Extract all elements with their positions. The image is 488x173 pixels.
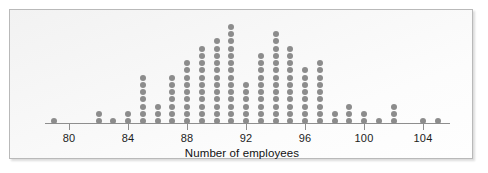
data-dot <box>169 82 175 88</box>
data-dot <box>273 82 279 88</box>
data-dot <box>184 89 190 95</box>
data-dot <box>140 89 146 95</box>
data-dot <box>391 104 397 110</box>
x-axis-tick-104 <box>423 124 424 130</box>
x-axis-tick-label-100: 100 <box>355 132 374 144</box>
data-dot <box>184 67 190 73</box>
data-dot <box>184 96 190 102</box>
data-dot <box>287 96 293 102</box>
data-dot <box>140 96 146 102</box>
data-dot <box>346 104 352 110</box>
data-dot <box>184 82 190 88</box>
data-dot <box>287 111 293 117</box>
data-dot <box>361 118 367 124</box>
data-dot <box>302 82 308 88</box>
data-dot <box>199 67 205 73</box>
data-dot <box>214 38 220 44</box>
data-dot <box>169 75 175 81</box>
data-dot <box>258 60 264 66</box>
data-dot <box>214 96 220 102</box>
x-axis-tick-label-92: 92 <box>240 132 253 144</box>
data-dot <box>169 111 175 117</box>
data-dot <box>302 67 308 73</box>
data-dot <box>273 96 279 102</box>
data-dot <box>228 82 234 88</box>
data-dot <box>391 118 397 124</box>
data-dot <box>214 67 220 73</box>
data-dot <box>140 118 146 124</box>
data-dot <box>273 111 279 117</box>
data-dot <box>258 53 264 59</box>
data-dot <box>258 96 264 102</box>
dot-plot-figure: Number of employees 8084889296100104 <box>0 0 488 173</box>
data-dot <box>169 89 175 95</box>
data-dot <box>243 104 249 110</box>
x-axis-tick-84 <box>128 124 129 130</box>
x-axis-tick-80 <box>69 124 70 130</box>
data-dot <box>346 111 352 117</box>
data-dot <box>287 53 293 59</box>
data-dot <box>140 82 146 88</box>
data-dot <box>273 89 279 95</box>
data-dot <box>228 31 234 37</box>
data-dot <box>302 75 308 81</box>
data-dot <box>361 111 367 117</box>
data-dot <box>258 75 264 81</box>
data-dot <box>243 96 249 102</box>
data-dot <box>228 75 234 81</box>
data-dot <box>214 46 220 52</box>
data-dot <box>317 89 323 95</box>
data-dot <box>214 60 220 66</box>
data-dot <box>376 118 382 124</box>
data-dot <box>214 104 220 110</box>
data-dot <box>287 104 293 110</box>
data-dot <box>199 89 205 95</box>
data-dot <box>273 104 279 110</box>
data-dot <box>302 96 308 102</box>
data-dot <box>214 89 220 95</box>
data-dot <box>273 60 279 66</box>
x-axis-title: Number of employees <box>10 147 474 159</box>
data-dot <box>199 46 205 52</box>
x-axis-tick-96 <box>305 124 306 130</box>
data-dot <box>258 67 264 73</box>
plot-area: Number of employees 8084889296100104 <box>10 10 474 160</box>
data-dot <box>243 82 249 88</box>
data-dot <box>287 75 293 81</box>
data-dot <box>273 46 279 52</box>
data-dot <box>287 46 293 52</box>
data-dot <box>317 67 323 73</box>
data-dot <box>287 60 293 66</box>
data-dot <box>199 82 205 88</box>
x-axis-tick-100 <box>364 124 365 130</box>
data-dot <box>273 31 279 37</box>
x-axis-tick-88 <box>187 124 188 130</box>
data-dot <box>435 118 441 124</box>
data-dot <box>317 104 323 110</box>
data-dot <box>302 89 308 95</box>
data-dot <box>391 111 397 117</box>
data-dot <box>214 53 220 59</box>
data-dot <box>420 118 426 124</box>
data-dot <box>169 96 175 102</box>
data-dot <box>317 60 323 66</box>
data-dot <box>302 118 308 124</box>
data-dot <box>184 118 190 124</box>
data-dot <box>243 89 249 95</box>
x-axis-tick-label-80: 80 <box>63 132 76 144</box>
data-dot <box>214 111 220 117</box>
data-dot <box>228 60 234 66</box>
data-dot <box>228 111 234 117</box>
data-dot <box>155 104 161 110</box>
data-dot <box>258 82 264 88</box>
data-dot <box>287 82 293 88</box>
data-dot <box>125 111 131 117</box>
data-dot <box>228 38 234 44</box>
x-axis-tick-label-84: 84 <box>122 132 135 144</box>
data-dot <box>243 111 249 117</box>
data-dot <box>287 67 293 73</box>
data-dot <box>228 24 234 30</box>
data-dot <box>228 96 234 102</box>
data-dot <box>140 104 146 110</box>
data-dot <box>258 111 264 117</box>
